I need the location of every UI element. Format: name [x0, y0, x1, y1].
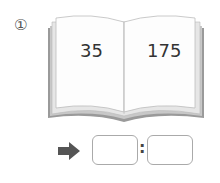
right-page-value: 175 — [147, 40, 181, 61]
left-page-value: 35 — [80, 40, 103, 61]
right-arrow-icon — [57, 141, 81, 161]
answer-box-left[interactable] — [92, 135, 138, 165]
answer-box-right[interactable] — [147, 135, 193, 165]
ratio-colon: : — [139, 138, 145, 157]
